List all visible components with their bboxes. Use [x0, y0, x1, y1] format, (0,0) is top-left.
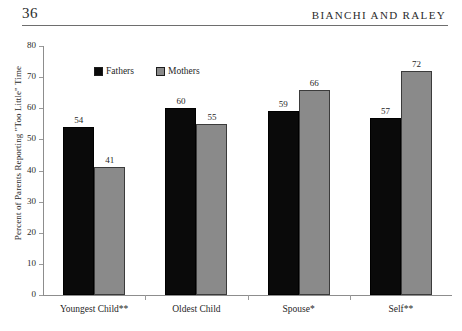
bar-fathers-2: 60 — [165, 108, 196, 295]
bar-value-label: 55 — [207, 112, 216, 123]
bar-value-label: 57 — [381, 106, 390, 117]
y-axis-tick-mark — [39, 295, 43, 296]
x-axis-group-separator — [248, 295, 249, 300]
bar-mothers-3: 66 — [299, 90, 330, 295]
bar-chart-figure: Percent of Parents Reporting "Too Little… — [0, 30, 462, 331]
bar-value-label: 60 — [176, 96, 185, 107]
page-number: 36 — [22, 5, 38, 22]
x-axis-group-separator — [145, 295, 146, 300]
bar-mothers-2: 55 — [196, 124, 227, 295]
y-axis-tick: 60 — [0, 108, 43, 109]
x-axis-group-separator — [350, 295, 351, 300]
y-axis-tick-label: 20 — [27, 226, 36, 238]
x-axis-category-label: Oldest Child — [172, 304, 220, 314]
bar-value-label: 54 — [74, 115, 83, 126]
y-axis-tick: 40 — [0, 171, 43, 172]
y-axis-tick-label: 30 — [27, 195, 36, 207]
header-divider — [22, 25, 448, 26]
y-axis-tick: 20 — [0, 233, 43, 234]
bar-mothers-4: 72 — [401, 71, 432, 295]
y-axis-tick: 0 — [0, 295, 43, 296]
bar-fathers-1: 54 — [63, 127, 94, 295]
page-running-head: 36 BIANCHI AND RALEY — [0, 0, 462, 30]
plot-area: 5441605559665772 — [43, 46, 452, 295]
bar-value-label: 41 — [105, 155, 114, 166]
x-axis-category-label: Self** — [388, 304, 413, 314]
x-axis-category-label: Youngest Child** — [60, 304, 128, 314]
y-axis-tick-label: 40 — [27, 164, 36, 176]
y-axis-tick: 30 — [0, 202, 43, 203]
y-axis-tick-label: 60 — [27, 101, 36, 113]
bar-fathers-3: 59 — [268, 111, 299, 295]
y-axis-tick: 70 — [0, 77, 43, 78]
y-axis-tick: 80 — [0, 46, 43, 47]
bar-fathers-4: 57 — [370, 118, 401, 295]
y-axis-tick: 10 — [0, 264, 43, 265]
bar-mothers-1: 41 — [94, 167, 125, 295]
y-axis-tick-label: 50 — [27, 132, 36, 144]
y-axis-tick-label: 70 — [27, 70, 36, 82]
y-axis-tick-label: 80 — [27, 39, 36, 51]
y-axis-tick-label: 0 — [32, 288, 37, 300]
running-title: BIANCHI AND RALEY — [312, 9, 446, 21]
bar-value-label: 72 — [412, 59, 421, 70]
y-axis-tick: 50 — [0, 139, 43, 140]
bar-value-label: 66 — [310, 78, 319, 89]
y-axis-tick-label: 10 — [27, 257, 36, 269]
bar-value-label: 59 — [279, 99, 288, 110]
x-axis-category-label: Spouse* — [283, 304, 315, 314]
y-axis-title: Percent of Parents Reporting "Too Little… — [13, 43, 23, 263]
